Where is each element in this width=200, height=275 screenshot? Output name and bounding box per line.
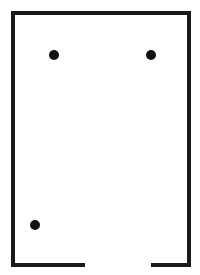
room-diagram [0,0,200,275]
point-1 [49,50,59,60]
point-3 [30,220,40,230]
point-2 [146,50,156,60]
background [0,0,200,275]
